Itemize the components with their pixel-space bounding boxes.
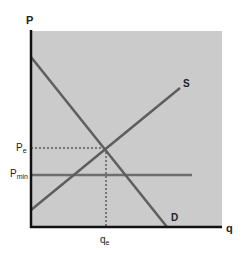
- price-floor-diagram: P q S D Pe Pmin qe: [0, 0, 243, 255]
- y-axis-label: P: [26, 14, 33, 26]
- qe-label: qe: [100, 234, 110, 246]
- pmin-label: Pmin: [10, 168, 28, 180]
- pe-label: Pe: [16, 142, 27, 154]
- plot-area: [31, 31, 222, 227]
- x-axis-label: q: [226, 222, 233, 234]
- demand-label: D: [171, 212, 178, 223]
- supply-label: S: [183, 78, 190, 89]
